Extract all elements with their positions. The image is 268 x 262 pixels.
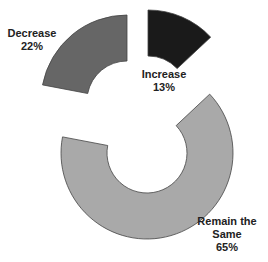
label-remain-pct: 65% bbox=[196, 241, 258, 254]
label-increase-name: Increase bbox=[136, 68, 192, 81]
label-remain-name-1: Remain the bbox=[196, 215, 258, 228]
label-remain: Remain the Same 65% bbox=[196, 215, 258, 254]
label-increase: Increase 13% bbox=[136, 68, 192, 94]
label-decrease-name: Decrease bbox=[4, 27, 60, 40]
segment-increase bbox=[148, 10, 211, 69]
label-decrease: Decrease 22% bbox=[4, 27, 60, 53]
label-increase-pct: 13% bbox=[136, 81, 192, 94]
label-decrease-pct: 22% bbox=[4, 40, 60, 53]
label-remain-name-2: Same bbox=[196, 228, 258, 241]
